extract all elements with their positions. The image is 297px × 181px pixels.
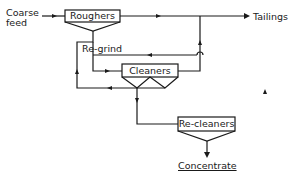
flowsheet-diagram bbox=[0, 0, 297, 181]
roughers-concentrate-stream bbox=[77, 31, 137, 88]
arrow-right-icon bbox=[52, 14, 57, 18]
arrow-up-icon bbox=[263, 89, 267, 94]
regrind-label: Re-grind bbox=[82, 44, 122, 54]
cleaners-label: Cleaners bbox=[122, 65, 178, 77]
arrow-down-icon bbox=[204, 152, 210, 158]
tailings-label: Tailings bbox=[253, 12, 288, 22]
coarse-feed-label: Coarse feed bbox=[6, 8, 39, 28]
arrow-right-icon bbox=[105, 69, 110, 73]
cleaner-concentrate-stream bbox=[137, 88, 178, 124]
recleaners-label: Re-cleaners bbox=[178, 118, 235, 130]
arrow-right-icon bbox=[156, 14, 161, 18]
concentrate-label: Concentrate bbox=[178, 161, 237, 171]
roughers-label: Roughers bbox=[65, 10, 120, 22]
arrow-down-icon bbox=[135, 98, 139, 103]
arrow-left-icon bbox=[147, 53, 152, 57]
arrow-left-icon bbox=[107, 86, 112, 90]
arrow-up-icon bbox=[75, 69, 79, 74]
cleaner-tailings-stream bbox=[178, 16, 200, 71]
feed-label-line2: feed bbox=[6, 18, 39, 28]
arrow-right-icon bbox=[244, 13, 250, 19]
arrow-up-icon bbox=[198, 40, 202, 45]
